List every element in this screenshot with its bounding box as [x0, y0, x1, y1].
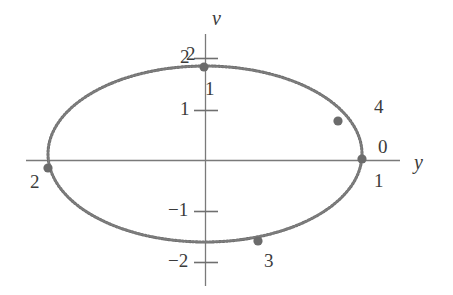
point-label-3: 3 [264, 251, 274, 270]
orbit-point-4 [333, 116, 342, 125]
orbit-point-1-2-top [199, 62, 208, 71]
figure-canvas: v y 2 1 −1 −2 2 1 4 0 1 2 3 [0, 0, 453, 295]
orbit-point-2 [43, 163, 52, 172]
tick-label-1: 1 [180, 99, 190, 118]
tick-label-neg2: −2 [168, 251, 188, 270]
v-axis-label: v [212, 8, 221, 28]
point-label-1-right: 1 [374, 171, 384, 190]
point-label-0: 0 [378, 137, 388, 156]
point-label-1-top: 1 [205, 79, 215, 98]
tick-label-neg1: −1 [168, 200, 188, 219]
orbit-point-0-1 [357, 154, 366, 163]
point-label-4: 4 [374, 97, 384, 116]
orbit-point-3 [253, 236, 262, 245]
point-label-2-top: 2 [186, 44, 196, 63]
y-axis-label: y [414, 152, 423, 172]
point-label-2-left: 2 [30, 172, 40, 191]
